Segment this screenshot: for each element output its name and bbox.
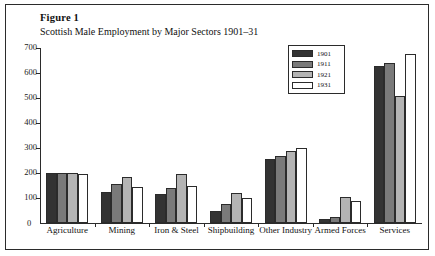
bar-1921	[286, 151, 297, 224]
figure-container: Figure 1 Scottish Male Employment by Maj…	[0, 0, 435, 256]
y-tick-700: 700	[40, 48, 41, 49]
bar-1921	[67, 173, 78, 223]
y-tick-label: 500	[24, 92, 37, 102]
x-axis-category-label: Shipbuilding	[208, 225, 255, 235]
legend-label: 1921	[317, 71, 331, 79]
bar-1911	[57, 173, 68, 223]
x-axis	[40, 223, 422, 224]
bar-1931	[242, 198, 253, 223]
x-tick-mark	[95, 223, 96, 227]
y-tick-label: 600	[24, 67, 37, 77]
bar-1911	[166, 188, 177, 223]
y-tick-label: 200	[24, 167, 37, 177]
bar-1901	[210, 211, 221, 224]
y-tick-300: 300	[40, 148, 41, 149]
legend-label: 1911	[317, 60, 331, 68]
legend-item-1901: 1901	[292, 49, 341, 58]
x-tick-mark	[204, 223, 205, 227]
legend: 1901191119211931	[288, 45, 345, 94]
bar-1911	[330, 217, 341, 223]
x-axis-category-label: Iron & Steel	[154, 225, 199, 235]
y-tick-label: 400	[24, 117, 37, 127]
legend-swatch-1921	[292, 71, 313, 78]
bar-1921	[231, 193, 242, 223]
x-axis-category-label: Mining	[109, 225, 136, 235]
legend-item-1931: 1931	[292, 81, 341, 90]
y-tick-label: 700	[24, 42, 37, 52]
x-tick-mark	[367, 223, 368, 227]
bar-1901	[101, 192, 112, 223]
y-tick-label: 300	[24, 142, 37, 152]
bar-1921	[122, 177, 133, 223]
legend-swatch-1901	[292, 50, 313, 57]
bar-1901	[46, 173, 57, 223]
bar-1921	[176, 174, 187, 223]
bar-1931	[405, 54, 416, 223]
plot-area: 0 100200300400500600700 AgricultureMinin…	[40, 48, 422, 223]
x-tick-mark	[149, 223, 150, 227]
y-tick-500: 500	[40, 98, 41, 99]
figure-title: Scottish Male Employment by Major Sector…	[40, 25, 370, 38]
y-axis	[40, 48, 41, 223]
figure-number: Figure 1	[40, 12, 370, 24]
bar-1931	[296, 148, 307, 223]
bar-1931	[187, 186, 198, 224]
x-axis-category-label: Other Industry	[259, 225, 312, 235]
x-tick-mark	[313, 223, 314, 227]
bar-1911	[221, 204, 232, 223]
bar-group: Iron & Steel	[155, 48, 197, 223]
x-axis-category-label: Armed Forces	[315, 225, 366, 235]
bar-1901	[319, 219, 330, 223]
bar-1931	[78, 174, 89, 223]
x-axis-category-label: Services	[379, 225, 410, 235]
bar-1901	[374, 66, 385, 224]
bar-1931	[132, 187, 143, 223]
legend-label: 1901	[317, 50, 331, 58]
bar-1931	[351, 201, 362, 224]
bar-1921	[340, 197, 351, 223]
legend-item-1911: 1911	[292, 60, 341, 69]
legend-swatch-1931	[292, 82, 313, 89]
legend-label: 1931	[317, 81, 331, 89]
bar-group: Mining	[101, 48, 143, 223]
y-tick-100: 100	[40, 198, 41, 199]
bar-1921	[395, 96, 406, 224]
bar-1901	[155, 194, 166, 223]
bar-group: Services	[374, 48, 416, 223]
bar-1911	[275, 156, 286, 224]
bar-1911	[111, 184, 122, 223]
title-block: Figure 1 Scottish Male Employment by Maj…	[40, 12, 370, 38]
bar-1901	[265, 159, 276, 223]
x-tick-mark	[258, 223, 259, 227]
bar-group: Agriculture	[46, 48, 88, 223]
y-tick-600: 600	[40, 73, 41, 74]
y-tick-200: 200	[40, 173, 41, 174]
x-axis-category-label: Agriculture	[47, 225, 88, 235]
y-tick-400: 400	[40, 123, 41, 124]
legend-item-1921: 1921	[292, 70, 341, 79]
y-axis-zero-label: 0	[27, 218, 31, 228]
y-tick-label: 100	[24, 192, 37, 202]
legend-swatch-1911	[292, 61, 313, 68]
bar-group: Shipbuilding	[210, 48, 252, 223]
bar-1911	[384, 63, 395, 223]
